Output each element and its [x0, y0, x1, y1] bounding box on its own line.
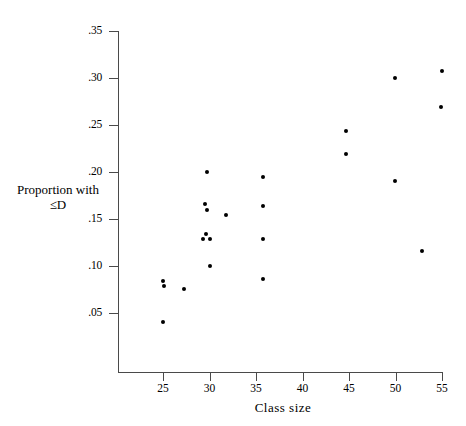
y-tick-label: .15 [62, 213, 102, 225]
x-tick-label: 55 [422, 383, 462, 395]
data-point [261, 277, 265, 281]
data-point [201, 237, 205, 241]
scatter-plot-figure: .05.10.15.20.25.30.35 25303540455055 Pro… [0, 0, 466, 426]
x-tick-mark [256, 372, 257, 381]
x-axis-title: Class size [188, 400, 378, 416]
data-point [204, 232, 208, 236]
data-point [393, 179, 397, 183]
data-point [261, 237, 265, 241]
data-point [161, 320, 165, 324]
data-point [203, 202, 207, 206]
x-tick-mark [349, 372, 350, 381]
data-point [439, 105, 443, 109]
x-tick-label: 40 [283, 383, 323, 395]
data-point [161, 279, 165, 283]
x-tick-label: 50 [376, 383, 416, 395]
data-point [344, 129, 348, 133]
y-tick-mark [109, 172, 118, 173]
y-tick-mark [109, 219, 118, 220]
x-tick-mark [210, 372, 211, 381]
data-point [420, 249, 424, 253]
y-tick-mark [109, 266, 118, 267]
y-axis-line [118, 31, 119, 372]
x-axis-line [118, 372, 443, 373]
x-tick-mark [163, 372, 164, 381]
data-point [208, 237, 212, 241]
data-point [393, 76, 397, 80]
y-tick-mark [109, 31, 118, 32]
data-point [261, 175, 265, 179]
y-tick-label: .25 [62, 119, 102, 131]
y-tick-label: .35 [62, 25, 102, 37]
data-point [440, 69, 444, 73]
x-tick-mark [303, 372, 304, 381]
y-tick-mark [109, 125, 118, 126]
data-point [261, 204, 265, 208]
x-tick-mark [396, 372, 397, 381]
data-point [208, 264, 212, 268]
data-point [344, 152, 348, 156]
data-point [224, 213, 228, 217]
x-tick-label: 30 [190, 383, 230, 395]
y-tick-label: .30 [62, 72, 102, 84]
y-tick-label: .10 [62, 260, 102, 272]
data-point [162, 284, 166, 288]
x-tick-label: 25 [143, 383, 183, 395]
x-tick-label: 35 [236, 383, 276, 395]
data-point [182, 287, 186, 291]
y-tick-label: .20 [62, 166, 102, 178]
data-point [205, 208, 209, 212]
x-tick-label: 45 [329, 383, 369, 395]
x-tick-mark [442, 372, 443, 381]
data-point [205, 170, 209, 174]
y-axis-title: Proportion with ≤D [8, 182, 108, 212]
y-tick-mark [109, 313, 118, 314]
y-tick-mark [109, 78, 118, 79]
y-tick-label: .05 [62, 307, 102, 319]
